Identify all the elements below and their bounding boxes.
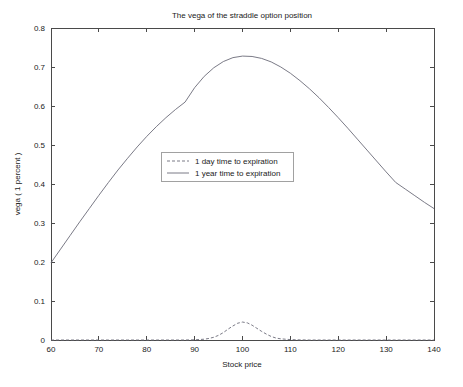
y-tick-label: 0.4 (34, 180, 46, 189)
x-tick-label: 90 (190, 345, 199, 354)
legend-label-1: 1 day time to expiration (195, 157, 278, 166)
chart-title-group: The vega of the straddle option position (172, 11, 312, 20)
axis-frame (51, 28, 434, 340)
x-axis-title: Stock price (222, 360, 262, 369)
x-tick-label: 130 (379, 345, 393, 354)
page-title: The vega of the straddle option position (172, 11, 312, 20)
x-axis-title-group: Stock price (222, 360, 262, 369)
figure-canvas: The vega of the straddle option position… (0, 0, 463, 387)
x-tick-label: 100 (236, 345, 250, 354)
axes-group (51, 28, 434, 340)
y-tick-label: 0.1 (34, 297, 46, 306)
y-axis-title-group: vega ( 1 percent ) (13, 152, 22, 215)
tick-marks-group (51, 28, 434, 340)
y-tick-label: 0.8 (34, 24, 46, 33)
y-tick-label: 0.6 (34, 102, 46, 111)
vega-straddle-chart: The vega of the straddle option position… (0, 0, 463, 387)
y-tick-label: 0.7 (34, 63, 46, 72)
x-tick-label: 120 (332, 345, 346, 354)
y-axis-tick-labels: 00.10.20.30.40.50.60.70.8 (34, 24, 46, 345)
y-tick-label: 0 (41, 336, 46, 345)
y-axis-title: vega ( 1 percent ) (13, 152, 22, 215)
data-series-group (51, 56, 434, 340)
legend: 1 day time to expiration1 year time to e… (161, 152, 293, 181)
y-tick-label: 0.3 (34, 219, 46, 228)
y-tick-label: 0.2 (34, 258, 46, 267)
x-axis-tick-labels: 60708090100110120130140 (47, 345, 442, 354)
legend-label-2: 1 year time to expiration (195, 169, 280, 178)
x-tick-label: 140 (427, 345, 441, 354)
x-tick-label: 110 (284, 345, 297, 354)
x-tick-label: 70 (94, 345, 103, 354)
y-tick-label: 0.5 (34, 141, 46, 150)
x-tick-label: 80 (142, 345, 151, 354)
x-tick-label: 60 (47, 345, 56, 354)
